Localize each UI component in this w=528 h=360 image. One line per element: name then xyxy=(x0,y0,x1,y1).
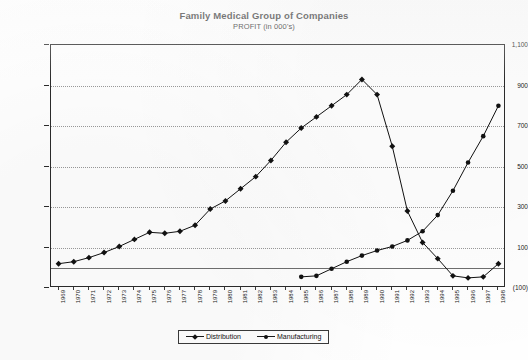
plot-area xyxy=(50,44,505,287)
x-axis-tick-label: 1990 xyxy=(379,290,385,330)
data-point-marker xyxy=(375,248,380,253)
legend-item-manufacturing[interactable]: Manufacturing xyxy=(257,333,321,340)
x-axis-tick-label: 1970 xyxy=(75,290,81,330)
data-point-marker xyxy=(71,259,77,265)
x-axis-tick-label: 1969 xyxy=(60,290,66,330)
data-point-marker xyxy=(435,213,440,218)
x-axis-tick-label: 1985 xyxy=(303,290,309,330)
data-point-marker xyxy=(56,261,62,267)
x-axis-tick-label: 1986 xyxy=(318,290,324,330)
data-point-marker xyxy=(131,236,137,242)
x-axis-tick-label: 1974 xyxy=(136,290,142,330)
chart-legend: DistributionManufacturing xyxy=(178,330,329,344)
data-point-marker xyxy=(116,244,122,250)
x-axis-tick-label: 1976 xyxy=(166,290,172,330)
chart-subtitle: PROFIT (in 000's) xyxy=(0,22,528,31)
y-axis-tick xyxy=(44,287,49,288)
data-point-marker xyxy=(314,274,319,279)
data-point-marker xyxy=(465,275,471,281)
x-axis-tick-label: 1984 xyxy=(288,290,294,330)
x-axis-tick-label: 1980 xyxy=(227,290,233,330)
data-point-marker xyxy=(147,229,153,235)
x-axis-tick-label: 1995 xyxy=(454,290,460,330)
series-manufacturing xyxy=(299,103,501,279)
x-axis-tick-label: 1988 xyxy=(348,290,354,330)
data-point-marker xyxy=(405,238,410,243)
data-point-marker xyxy=(466,160,471,165)
data-point-marker xyxy=(101,250,107,256)
series-line xyxy=(59,79,499,277)
x-axis-tick-label: 1979 xyxy=(212,290,218,330)
y-axis-tick xyxy=(44,125,49,126)
legend-label: Distribution xyxy=(206,333,241,340)
series-distribution xyxy=(56,76,502,280)
y-axis-tick xyxy=(44,247,49,248)
data-point-marker xyxy=(329,266,334,271)
legend-marker-icon xyxy=(257,333,275,340)
x-axis-tick-label: 1975 xyxy=(151,290,157,330)
x-axis-tick-label: 1971 xyxy=(90,290,96,330)
data-point-marker xyxy=(496,103,501,108)
data-point-marker xyxy=(451,189,456,194)
x-axis-tick-label: 1996 xyxy=(470,290,476,330)
data-point-marker xyxy=(389,143,395,149)
y-axis-tick xyxy=(44,206,49,207)
y-axis-tick xyxy=(44,44,49,45)
x-axis-tick-label: 1978 xyxy=(197,290,203,330)
data-point-marker xyxy=(420,229,425,234)
data-point-marker xyxy=(86,255,92,261)
x-axis-tick-label: 1998 xyxy=(500,290,506,330)
legend-item-distribution[interactable]: Distribution xyxy=(186,333,241,340)
x-axis-tick-label: 1993 xyxy=(424,290,430,330)
data-point-marker xyxy=(177,228,183,234)
data-point-marker xyxy=(390,244,395,249)
legend-label: Manufacturing xyxy=(277,333,321,340)
x-axis-tick-label: 1994 xyxy=(439,290,445,330)
x-axis-tick-label: 1972 xyxy=(106,290,112,330)
series-line xyxy=(301,106,498,277)
data-point-marker xyxy=(162,230,168,236)
series-lines xyxy=(51,45,506,288)
x-axis-tick-label: 1991 xyxy=(394,290,400,330)
data-point-marker xyxy=(360,253,365,258)
x-axis-tick-label: 1983 xyxy=(272,290,278,330)
chart-container: Family Medical Group of Companies PROFIT… xyxy=(0,0,528,360)
data-point-marker xyxy=(404,208,410,214)
y-axis-tick xyxy=(44,166,49,167)
x-axis-tick-label: 1977 xyxy=(181,290,187,330)
data-point-marker xyxy=(299,275,304,280)
x-axis-tick-label: 1982 xyxy=(257,290,263,330)
y-axis-tick xyxy=(44,85,49,86)
x-axis-tick-label: 1973 xyxy=(121,290,127,330)
legend-marker-icon xyxy=(186,333,204,340)
chart-title: Family Medical Group of Companies xyxy=(0,10,528,21)
x-axis-tick-label: 1989 xyxy=(363,290,369,330)
x-axis-tick-label: 1987 xyxy=(333,290,339,330)
x-axis-tick-label: 1997 xyxy=(485,290,491,330)
x-axis-tick-label: 1992 xyxy=(409,290,415,330)
x-axis-tick-label: 1981 xyxy=(242,290,248,330)
data-point-marker xyxy=(481,134,486,139)
data-point-marker xyxy=(344,259,349,264)
